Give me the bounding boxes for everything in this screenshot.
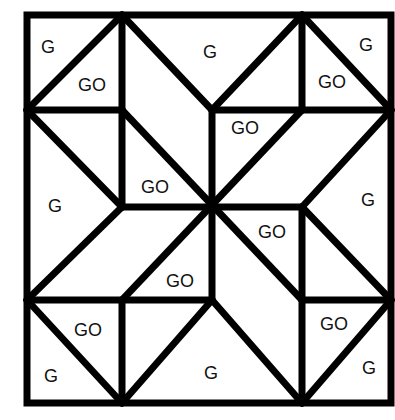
label-tl-inner: GO	[78, 75, 106, 95]
label-tr-corner: G	[359, 35, 373, 55]
label-right-mid: G	[361, 190, 375, 210]
label-left-mid: G	[48, 196, 62, 216]
label-left-center-go: GO	[141, 177, 169, 197]
label-br-corner: G	[362, 358, 376, 378]
label-br-inner: GO	[320, 314, 348, 334]
label-tr-inner: GO	[318, 72, 346, 92]
label-top-mid: G	[203, 42, 217, 62]
label-tl-corner: G	[41, 37, 55, 57]
label-lower-center-go: GO	[166, 271, 194, 291]
quilt-block-diagram: G GO G GO G GO GO G G GO GO GO G G GO G	[0, 0, 395, 420]
label-upper-center-go: GO	[231, 118, 259, 138]
label-bottom-mid: G	[204, 363, 218, 383]
label-bl-corner: G	[44, 366, 58, 386]
label-right-center-go: GO	[258, 222, 286, 242]
label-bl-inner: GO	[74, 320, 102, 340]
